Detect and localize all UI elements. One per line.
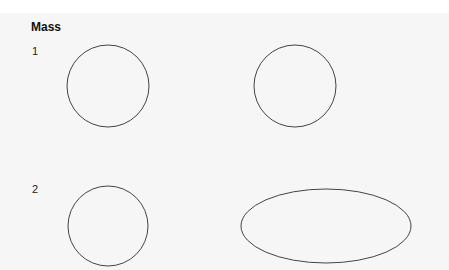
shapes-canvas xyxy=(0,0,449,270)
row-2-shape-1-circle xyxy=(68,186,148,266)
row-1-shape-2-circle xyxy=(254,45,336,127)
row-1-shape-1-circle xyxy=(67,45,149,127)
row-2-shape-2-ellipse xyxy=(241,189,411,263)
